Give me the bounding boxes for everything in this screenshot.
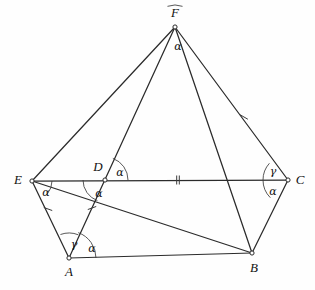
- geometry-figure: FEDCAB ααααγαγα: [0, 0, 315, 290]
- segments-layer: [32, 27, 288, 258]
- angle-C-gamma-arc: [263, 163, 269, 180]
- angle-A-gamma-label: γ: [71, 238, 78, 251]
- segment-E-F: [32, 27, 175, 181]
- segment-E-B: [32, 181, 252, 253]
- angle-D-lower-alpha-label: α: [95, 187, 103, 200]
- segment-A-B: [69, 253, 252, 258]
- tick-marks-layer: [44, 115, 248, 211]
- angle-E-alpha-label: α: [42, 186, 50, 199]
- angle-C-gamma-label: γ: [270, 165, 277, 178]
- vertex-label-D: D: [92, 159, 103, 174]
- vertex-point-E: [30, 179, 34, 183]
- vertex-point-C: [286, 178, 290, 182]
- segment-F-B: [175, 27, 252, 253]
- vertex-label-A: A: [64, 264, 73, 279]
- vertex-point-A: [67, 256, 71, 260]
- vertex-point-D: [103, 178, 107, 182]
- segment-F-C: [175, 27, 288, 180]
- vertex-label-F: F: [170, 5, 180, 20]
- segment-E-C: [32, 180, 288, 181]
- angle-F-alpha-label: α: [174, 40, 182, 53]
- geometry-canvas: FEDCAB ααααγαγα: [0, 0, 315, 290]
- angle-C-alpha-label: α: [269, 185, 277, 198]
- vertex-point-F: [173, 25, 177, 29]
- segment-E-A: [32, 181, 69, 258]
- angle-A-alpha-label: α: [88, 242, 96, 255]
- vertex-label-E: E: [13, 172, 22, 187]
- vertex-label-C: C: [296, 172, 305, 187]
- vertex-point-B: [250, 251, 254, 255]
- angle-D-upper-alpha-label: α: [116, 166, 124, 179]
- segment-F-A: [69, 27, 175, 258]
- angle-A-gamma-arc: [60, 233, 78, 235]
- vertex-labels-layer: FEDCAB: [13, 5, 305, 279]
- angle-arcs-layer: [47, 5, 270, 258]
- vertex-label-B: B: [250, 260, 258, 275]
